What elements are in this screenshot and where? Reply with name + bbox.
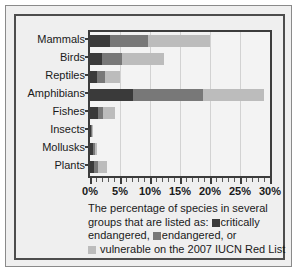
x-axis-tick-minor bbox=[126, 178, 127, 182]
bar-row bbox=[90, 122, 270, 140]
x-axis-tick-minor bbox=[102, 178, 103, 182]
x-axis-tick-minor bbox=[96, 178, 97, 182]
x-axis-tick-minor bbox=[162, 178, 163, 182]
legend-label-critical: critically bbox=[221, 216, 260, 228]
bar-row bbox=[90, 68, 270, 86]
x-axis-tick-minor bbox=[114, 178, 115, 182]
bar-row bbox=[90, 50, 270, 68]
x-axis-tick-minor bbox=[108, 178, 109, 182]
bar-segment-endangered bbox=[133, 89, 203, 101]
x-axis-tick-minor bbox=[168, 178, 169, 182]
caption-line-3: endangered, endangered, or bbox=[88, 229, 280, 243]
x-axis-tick-major bbox=[120, 178, 122, 184]
x-axis-tick-major bbox=[180, 178, 182, 184]
caption-line-2-text: groups that are listed as: bbox=[88, 216, 208, 228]
stacked-bar bbox=[90, 89, 264, 101]
y-axis-labels: MammalsBirdsReptilesAmphibiansFishesInse… bbox=[16, 30, 85, 178]
x-axis-tick-major bbox=[270, 178, 272, 184]
chart-frame: MammalsBirdsReptilesAmphibiansFishesInse… bbox=[14, 14, 285, 260]
legend-swatch-endangered bbox=[153, 232, 161, 240]
stacked-bar bbox=[90, 53, 164, 65]
caption-line-1: The percentage of species in several bbox=[88, 202, 280, 216]
caption-line-2: groups that are listed as: critically bbox=[88, 216, 280, 230]
x-axis-tick-minor bbox=[198, 178, 199, 182]
y-axis-label-fishes: Fishes bbox=[15, 105, 85, 117]
y-axis-label-mollusks: Mollusks bbox=[15, 141, 85, 153]
bar-row bbox=[90, 86, 270, 104]
stacked-bar bbox=[90, 35, 210, 47]
x-axis-tick-minor bbox=[204, 178, 205, 182]
plot-area bbox=[88, 30, 272, 178]
x-axis-tick-label: 5% bbox=[112, 185, 128, 197]
x-axis-tick-minor bbox=[144, 178, 145, 182]
x-axis-tick-label: 20% bbox=[199, 185, 221, 197]
x-axis-tick-minor bbox=[186, 178, 187, 182]
bar-segment-critical bbox=[90, 35, 110, 47]
bar-segment-vulnerable bbox=[95, 143, 97, 155]
bar-segment-endangered bbox=[97, 71, 105, 83]
bar-row bbox=[90, 140, 270, 158]
x-axis-tick-labels: 0%5%10%15%20%25%30% bbox=[88, 185, 272, 199]
x-axis-tick-major bbox=[240, 178, 242, 184]
stacked-bar bbox=[90, 71, 120, 83]
x-axis-tick-label: 10% bbox=[139, 185, 161, 197]
x-axis-tick-minor bbox=[228, 178, 229, 182]
x-axis-tick-minor bbox=[192, 178, 193, 182]
chart-caption: The percentage of species in several gro… bbox=[88, 202, 280, 256]
x-axis-tick-label: 0% bbox=[82, 185, 98, 197]
stacked-bar bbox=[90, 107, 115, 119]
bar-segment-endangered bbox=[110, 35, 148, 47]
x-axis-tick-major bbox=[210, 178, 212, 184]
plot-wrapper: MammalsBirdsReptilesAmphibiansFishesInse… bbox=[16, 16, 287, 262]
figure-container: MammalsBirdsReptilesAmphibiansFishesInse… bbox=[5, 5, 292, 267]
x-axis-tick-minor bbox=[216, 178, 217, 182]
x-axis-tick-major bbox=[150, 178, 152, 184]
stacked-bar bbox=[90, 161, 107, 173]
x-axis-tick-minor bbox=[132, 178, 133, 182]
bar-segment-critical bbox=[90, 53, 102, 65]
legend-swatch-critical bbox=[212, 219, 220, 227]
bar-segment-vulnerable bbox=[98, 161, 108, 173]
legend-label-vulnerable: vulnerable on the 2007 IUCN Red List bbox=[100, 243, 285, 255]
bar-segment-vulnerable bbox=[92, 125, 93, 137]
bar-segment-critical bbox=[90, 107, 98, 119]
x-axis-tick-major bbox=[90, 178, 92, 184]
x-axis-tick-minor bbox=[234, 178, 235, 182]
y-axis-label-amphibians: Amphibians bbox=[15, 87, 85, 99]
y-axis-label-birds: Birds bbox=[15, 51, 85, 63]
x-axis-tick-minor bbox=[246, 178, 247, 182]
bar-row bbox=[90, 104, 270, 122]
x-axis-tick-minor bbox=[252, 178, 253, 182]
bar-row bbox=[90, 32, 270, 50]
x-axis-tick-minor bbox=[264, 178, 265, 182]
y-axis-label-reptiles: Reptiles bbox=[15, 69, 85, 81]
x-axis-tick-minor bbox=[138, 178, 139, 182]
y-axis-label-plants: Plants bbox=[15, 159, 85, 171]
x-axis-tick-minor bbox=[222, 178, 223, 182]
bar-segment-vulnerable bbox=[103, 107, 115, 119]
y-axis-label-insects: Insects bbox=[15, 123, 85, 135]
bar-segment-critical bbox=[90, 89, 133, 101]
caption-line-3-text: endangered, bbox=[88, 229, 150, 241]
x-axis-tick-label: 25% bbox=[229, 185, 251, 197]
x-axis-tick-minor bbox=[156, 178, 157, 182]
bar-segment-vulnerable bbox=[148, 35, 210, 47]
x-axis-tick-label: 30% bbox=[259, 185, 281, 197]
bar-row bbox=[90, 158, 270, 176]
caption-line-4: vulnerable on the 2007 IUCN Red List bbox=[88, 243, 280, 257]
bar-segment-endangered bbox=[102, 53, 122, 65]
legend-label-endangered: endangered, or bbox=[162, 229, 237, 241]
stacked-bar bbox=[90, 143, 97, 155]
legend-swatch-vulnerable bbox=[88, 246, 96, 254]
x-axis-tick-minor bbox=[174, 178, 175, 182]
x-axis-ticks bbox=[88, 178, 272, 185]
x-axis-tick-minor bbox=[258, 178, 259, 182]
stacked-bar bbox=[90, 125, 92, 137]
y-axis-label-mammals: Mammals bbox=[15, 33, 85, 45]
bar-segment-critical bbox=[90, 71, 97, 83]
bar-segment-vulnerable bbox=[203, 89, 264, 101]
bar-segment-vulnerable bbox=[122, 53, 163, 65]
bar-segment-vulnerable bbox=[105, 71, 120, 83]
x-axis-tick-label: 15% bbox=[169, 185, 191, 197]
